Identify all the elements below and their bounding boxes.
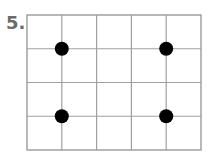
grid-dot [55, 109, 69, 123]
grid-dot [159, 109, 173, 123]
dot-grid [0, 0, 207, 155]
grid-dot [159, 42, 173, 56]
grid-dot [55, 42, 69, 56]
